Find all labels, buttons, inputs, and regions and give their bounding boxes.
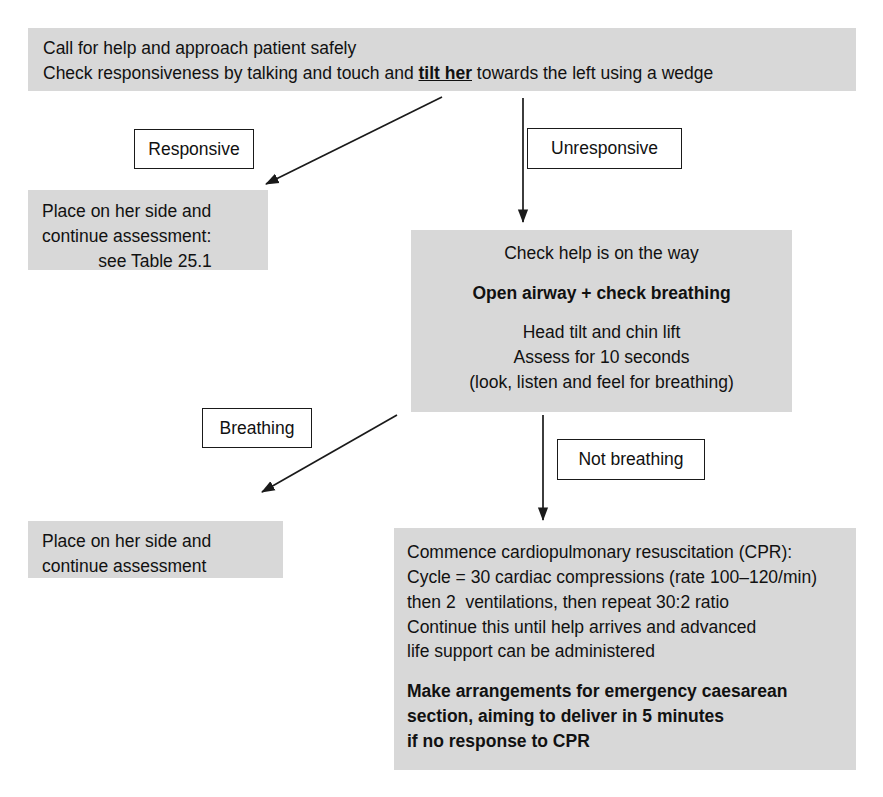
arrow-top-to-responsive (266, 97, 442, 184)
node-line: Place on her side and (42, 199, 268, 224)
flowchart-canvas: Call for help and approach patient safel… (0, 0, 883, 797)
node-place-on-side: Place on her side and continue assessmen… (28, 521, 283, 578)
node-line: Place on her side and (42, 529, 283, 554)
node-line-underlined: Commence cardiopulmonary resuscitation (… (407, 542, 792, 562)
node-check-help-open-airway: Check help is on the way Open airway + c… (411, 230, 792, 412)
node-line-emphasis: tilt her (419, 63, 472, 83)
node-line: see Table 25.1 (42, 249, 268, 274)
edge-label-unresponsive[interactable]: Unresponsive (527, 128, 682, 169)
node-line-tail: towards the left using a wedge (472, 63, 713, 83)
node-call-for-help: Call for help and approach patient safel… (28, 28, 856, 91)
node-line: life support can be administered (407, 639, 856, 664)
node-line-text: Check responsiveness by talking and touc… (43, 63, 419, 83)
edge-label-not-breathing[interactable]: Not breathing (557, 439, 705, 480)
node-line: then 2 ventilations, then repeat 30:2 ra… (407, 590, 856, 615)
node-line: Cycle = 30 cardiac compressions (rate 10… (407, 565, 856, 590)
node-line-spacer (425, 306, 778, 321)
node-line: Open airway + check breathing (425, 281, 778, 306)
node-line: section, aiming to deliver in 5 minutes (407, 704, 856, 729)
node-place-on-side-see-table: Place on her side and continue assessmen… (28, 190, 268, 270)
node-line: Check help is on the way (425, 241, 778, 266)
node-commence-cpr: Commence cardiopulmonary resuscitation (… (394, 528, 856, 770)
node-line: if no response to CPR (407, 729, 856, 754)
node-line: Make arrangements for emergency caesarea… (407, 679, 856, 704)
node-line-spacer (407, 664, 856, 679)
node-line: Head tilt and chin lift (425, 320, 778, 345)
node-line: Call for help and approach patient safel… (43, 36, 856, 61)
node-line-underlined: Check help is on the way (504, 243, 699, 263)
node-line: (look, listen and feel for breathing) (425, 370, 778, 395)
node-line: Commence cardiopulmonary resuscitation (… (407, 540, 856, 565)
edge-label-responsive[interactable]: Responsive (134, 129, 254, 169)
node-line: continue assessment (42, 554, 283, 579)
node-line: Check responsiveness by talking and touc… (43, 61, 856, 86)
node-line: Assess for 10 seconds (425, 345, 778, 370)
edge-label-breathing[interactable]: Breathing (202, 408, 312, 448)
node-line-spacer (425, 266, 778, 281)
node-line: continue assessment: (42, 224, 268, 249)
node-line: Continue this until help arrives and adv… (407, 615, 856, 640)
